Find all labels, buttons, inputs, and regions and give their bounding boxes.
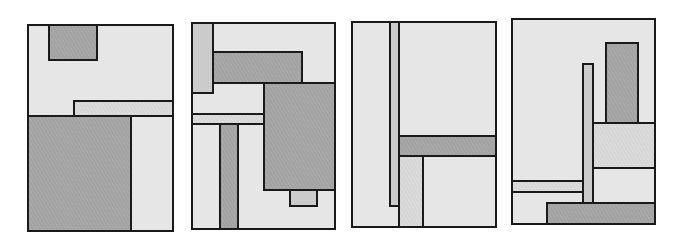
panel-4-rect-5 [511,180,584,193]
panel-2-rect-2 [212,51,303,84]
panel-1-rect-3 [27,115,132,232]
panel-3-rect-3 [398,155,424,228]
panel-3-rect-4 [422,155,497,228]
panel-2-rect-3 [263,82,336,191]
panel-3-rect-2 [398,135,497,157]
panel-1-rect-4 [130,115,174,232]
panel-4-rect-6 [546,202,656,225]
panel-2-rect-1 [191,22,214,94]
panel-4-rect-4 [592,167,656,205]
panel-4-rect-3 [592,122,656,169]
panel-2-rect-5 [219,123,239,230]
panel-1-rect-1 [48,24,98,61]
panel-2-rect-6 [289,189,318,207]
panel-4-rect-1 [605,42,639,124]
